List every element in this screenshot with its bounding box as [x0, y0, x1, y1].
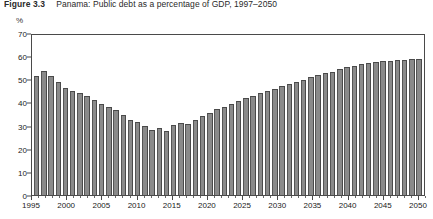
bar — [77, 93, 82, 195]
plot-area — [31, 34, 425, 196]
bar — [149, 130, 154, 195]
x-axis-minor-tick — [327, 196, 328, 198]
x-axis-tick-label: 2040 — [339, 201, 357, 210]
x-axis-minor-tick — [355, 196, 356, 198]
bar — [366, 63, 371, 195]
x-axis-tick-label: 2030 — [268, 201, 286, 210]
bar — [157, 128, 162, 195]
x-axis-minor-tick — [38, 196, 39, 198]
bar — [229, 104, 234, 195]
bar — [70, 91, 75, 195]
bar — [171, 125, 176, 195]
bar — [380, 61, 385, 195]
y-axis-tick-label: 70 — [18, 30, 27, 39]
bar — [142, 126, 147, 195]
bar — [207, 113, 212, 195]
x-axis-tick-label: 2025 — [233, 201, 251, 210]
x-axis-minor-tick — [263, 196, 264, 198]
y-axis-tick-label: 50 — [18, 76, 27, 85]
bar — [34, 76, 39, 195]
bar — [337, 69, 342, 195]
x-axis-minor-tick — [298, 196, 299, 198]
x-axis-minor-tick — [425, 196, 426, 198]
x-axis-tick-mark — [418, 196, 419, 200]
bar — [409, 59, 414, 195]
bar — [113, 110, 118, 195]
x-axis-minor-tick — [256, 196, 257, 198]
x-axis-minor-tick — [369, 196, 370, 198]
x-axis-minor-tick — [249, 196, 250, 198]
bar — [56, 82, 61, 195]
x-axis-minor-tick — [334, 196, 335, 198]
bar — [258, 93, 263, 195]
x-axis-minor-tick — [214, 196, 215, 198]
bar — [373, 62, 378, 195]
x-axis-minor-tick — [59, 196, 60, 198]
x-axis-minor-tick — [144, 196, 145, 198]
x-axis-minor-tick — [87, 196, 88, 198]
x-axis-tick-mark — [242, 196, 243, 200]
bar — [178, 123, 183, 195]
x-axis-minor-tick — [341, 196, 342, 198]
x-axis-tick-mark — [383, 196, 384, 200]
x-axis-tick-label: 2015 — [163, 201, 181, 210]
bar — [330, 72, 335, 195]
x-axis-tick-mark — [172, 196, 173, 200]
y-axis-tick-label: 20 — [18, 145, 27, 154]
bar — [301, 80, 306, 195]
x-axis-tick-mark — [207, 196, 208, 200]
bars-container — [32, 35, 424, 195]
bar — [265, 91, 270, 195]
x-axis-minor-tick — [291, 196, 292, 198]
x-axis-minor-tick — [179, 196, 180, 198]
bar — [287, 84, 292, 195]
bar — [121, 115, 126, 195]
bar — [308, 77, 313, 195]
figure-caption: Figure 3.3 Panama: Public debt as a perc… — [4, 0, 429, 9]
bar — [359, 64, 364, 195]
x-axis-minor-tick — [73, 196, 74, 198]
bar — [279, 86, 284, 195]
bar — [84, 96, 89, 195]
figure-number: Figure 3.3 — [4, 0, 45, 9]
x-axis-tick-label: 2020 — [198, 201, 216, 210]
x-axis-minor-tick — [45, 196, 46, 198]
y-axis-tick-label: 10 — [18, 168, 27, 177]
x-axis-minor-tick — [411, 196, 412, 198]
bar — [294, 82, 299, 195]
y-axis-tick-label: 60 — [18, 53, 27, 62]
y-axis-tick-label: 30 — [18, 122, 27, 131]
y-axis-unit-label: % — [16, 16, 23, 25]
x-axis-minor-tick — [94, 196, 95, 198]
bar — [63, 88, 68, 195]
x-axis-minor-tick — [397, 196, 398, 198]
x-axis-minor-tick — [108, 196, 109, 198]
x-axis-tick-mark — [66, 196, 67, 200]
bar — [323, 73, 328, 195]
x-axis-tick-mark — [137, 196, 138, 200]
bar — [185, 124, 190, 195]
x-axis-minor-tick — [52, 196, 53, 198]
x-axis-minor-tick — [158, 196, 159, 198]
bar — [250, 96, 255, 195]
x-axis-minor-tick — [319, 196, 320, 198]
x-axis-minor-tick — [284, 196, 285, 198]
bar — [388, 61, 393, 195]
bar — [416, 59, 421, 195]
bar — [200, 116, 205, 195]
bar — [402, 60, 407, 195]
x-axis-tick-label: 1995 — [22, 201, 40, 210]
x-axis-minor-tick — [221, 196, 222, 198]
x-axis-tick-mark — [31, 196, 32, 200]
bar — [128, 120, 133, 195]
x-axis-tick-mark — [312, 196, 313, 200]
x-axis-minor-tick — [151, 196, 152, 198]
bar — [222, 107, 227, 195]
x-axis-minor-tick — [80, 196, 81, 198]
y-axis: 010203040506070 — [0, 34, 31, 196]
bar — [243, 98, 248, 195]
x-axis-tick-label: 2035 — [304, 201, 322, 210]
bar — [99, 104, 104, 195]
bar — [236, 101, 241, 195]
bar — [41, 71, 46, 195]
